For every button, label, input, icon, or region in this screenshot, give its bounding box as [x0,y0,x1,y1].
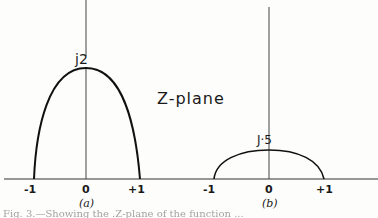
peak-label-b: J·5 [257,134,272,146]
tick-b-neg1: -1 [203,184,215,195]
curve-a [34,68,140,179]
tick-a-neg1: -1 [24,184,36,195]
figure-caption: Fig. 3.—Showing the .Z-plane of the func… [3,208,244,218]
tick-a-pos1: +1 [128,184,145,195]
peak-label-a: j2 [75,52,88,66]
plane-title: Z-plane [157,91,225,107]
panel-b-label: (b) [262,198,278,209]
tick-b-pos1: +1 [316,184,333,195]
figure: j2 Z-plane J·5 -1 0 +1 -1 0 +1 (a) (b) F… [0,0,378,218]
tick-a-zero: 0 [82,184,90,195]
tick-b-zero: 0 [265,184,273,195]
